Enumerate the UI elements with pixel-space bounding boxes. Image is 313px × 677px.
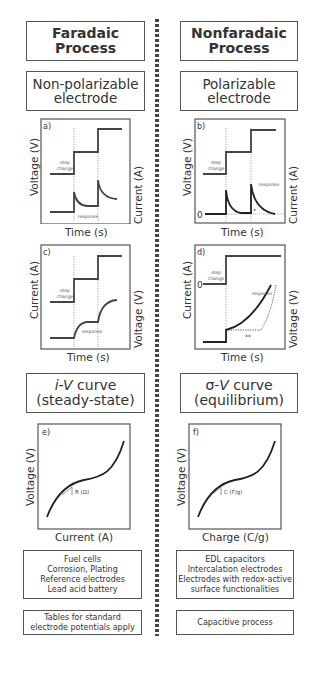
faradaic-note-box: Tables for standard electrode potentials… <box>23 610 142 635</box>
svg-text:C (F/g): C (F/g) <box>224 489 242 496</box>
example-item: Lead acid battery <box>47 585 117 595</box>
plot-d: d) 0 step change response ** Current (A)… <box>181 244 306 369</box>
svg-text:change: change <box>208 276 225 281</box>
note-line2: electrode potentials apply <box>30 623 134 633</box>
example-item: Intercalation electrodes <box>188 565 283 575</box>
nonfaradaic-title-line1: Nonfaradaic <box>191 26 287 41</box>
polarizable-box: Polarizable electrode <box>180 71 298 111</box>
svg-text:step: step <box>60 160 70 165</box>
svg-text:**: ** <box>245 333 251 340</box>
plot-c-graph: c) step change response <box>29 244 149 350</box>
svg-text:R (Ω): R (Ω) <box>75 489 89 495</box>
svg-text:step: step <box>211 270 221 275</box>
non-polarizable-box: Non-polarizable electrode <box>26 71 145 111</box>
example-item: Reference electrodes <box>40 575 125 585</box>
nonfaradaic-note-box: Capacitive process <box>176 610 294 635</box>
plot-d-xlabel: Time (s) <box>221 351 264 363</box>
plot-b-ylabel-left: Voltage (V) <box>181 138 193 196</box>
faradaic-title-line2: Process <box>55 41 116 56</box>
svg-text:b): b) <box>197 122 205 131</box>
nonfaradaic-examples-box: EDL capacitors Intercalation electrodes … <box>176 550 294 599</box>
svg-text:response: response <box>259 182 280 187</box>
column-divider <box>155 19 159 636</box>
nonfaradaic-title-line2: Process <box>208 41 269 56</box>
sigma-v-curve-box: σ-V curve (equilibrium) <box>180 373 298 413</box>
plot-b-xlabel: Time (s) <box>221 226 264 238</box>
svg-text:response: response <box>82 329 103 334</box>
svg-text:change: change <box>57 294 74 299</box>
sigma-v-curve-line1: σ-V curve <box>205 378 272 393</box>
non-polarizable-line1: Non-polarizable <box>33 77 139 91</box>
iv-curve-line1: i-V curve <box>55 378 117 393</box>
svg-text:f): f) <box>193 428 199 437</box>
plot-e-xlabel: Current (A) <box>55 531 113 543</box>
plot-c-ylabel-left: Current (A) <box>28 261 40 319</box>
iv-curve-box: i-V curve (steady-state) <box>26 373 145 413</box>
plot-f-graph: f) C (F/g) <box>176 423 296 531</box>
svg-text:response: response <box>78 214 99 219</box>
svg-text:change: change <box>57 166 74 171</box>
svg-text:0: 0 <box>197 280 203 290</box>
svg-text:a): a) <box>43 122 51 131</box>
plot-e: e) R (Ω) Voltage (V) Current (A) <box>24 423 154 548</box>
plot-a-ylabel-right: Current (A) <box>132 166 144 224</box>
plot-f-ylabel: Voltage (V) <box>175 448 187 506</box>
plot-f: f) C (F/g) Voltage (V) Charge (C/g) <box>176 423 306 548</box>
non-polarizable-line2: electrode <box>54 91 117 105</box>
plot-d-ylabel-right: Voltage (V) <box>287 290 299 348</box>
polarizable-line2: electrode <box>207 91 270 105</box>
svg-text:response: response <box>252 291 273 296</box>
svg-text:change: change <box>208 166 225 171</box>
plot-a-xlabel: Time (s) <box>65 226 108 238</box>
note-line1: Capacitive process <box>197 618 272 628</box>
plot-a: a) step change response Voltage (V) Curr… <box>29 118 149 243</box>
iv-curve-line2: (steady-state) <box>36 393 134 408</box>
svg-text:c): c) <box>43 248 51 257</box>
plot-e-ylabel: Voltage (V) <box>24 448 36 506</box>
plot-c: c) step change response Current (A) Volt… <box>29 244 149 369</box>
svg-text:*: * <box>253 207 256 214</box>
plot-e-graph: e) R (Ω) <box>24 423 144 531</box>
faradaic-examples-box: Fuel cells Corrosion, Plating Reference … <box>23 550 142 599</box>
plot-f-xlabel: Charge (C/g) <box>202 531 269 543</box>
plot-c-xlabel: Time (s) <box>67 351 110 363</box>
svg-text:step: step <box>60 288 70 293</box>
example-item: EDL capacitors <box>205 555 265 565</box>
plot-a-graph: a) step change response <box>29 118 149 224</box>
svg-text:d): d) <box>197 248 205 257</box>
note-line1: Tables for standard <box>44 613 120 623</box>
plot-b-ylabel-right: Current (A) <box>287 166 299 224</box>
plot-c-ylabel-right: Voltage (V) <box>132 290 144 348</box>
faradaic-header-box: Faradaic Process <box>26 21 145 61</box>
polarizable-line1: Polarizable <box>202 77 275 91</box>
example-item: surface functionalities <box>191 585 280 595</box>
nonfaradaic-header-box: Nonfaradaic Process <box>180 21 298 61</box>
svg-text:0: 0 <box>197 210 203 220</box>
plot-d-ylabel-left: Current (A) <box>181 261 193 319</box>
faradaic-title-line1: Faradaic <box>52 26 119 41</box>
sigma-v-curve-line2: (equilibrium) <box>194 393 284 408</box>
example-item: Corrosion, Plating <box>47 565 118 575</box>
plot-b: b) 0 step change response * Voltage (V) … <box>181 118 306 243</box>
plot-a-ylabel-left: Voltage (V) <box>28 138 40 196</box>
example-item: Electrodes with redox-active <box>178 575 292 585</box>
example-item: Fuel cells <box>64 555 101 565</box>
svg-text:e): e) <box>42 428 50 437</box>
svg-text:step: step <box>211 160 221 165</box>
